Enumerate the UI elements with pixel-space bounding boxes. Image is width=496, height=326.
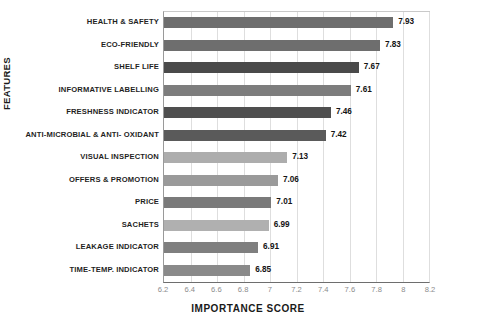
x-tick-label: 7.4 <box>318 285 329 294</box>
category-label: FRESHNESS INDICATOR <box>66 106 159 118</box>
bar-row: TIME-TEMP. INDICATOR6.85 <box>164 260 429 283</box>
x-axis-title: IMPORTANCE SCORE <box>0 303 496 314</box>
x-tick-label: 7 <box>268 285 272 294</box>
bar-row: ANTI-MICROBIAL & ANTI- OXIDANT7.42 <box>164 125 429 148</box>
category-label: OFFERS & PROMOTION <box>69 174 159 186</box>
category-label: SACHETS <box>122 219 159 231</box>
bar <box>164 152 287 163</box>
x-tick-label: 8.2 <box>425 285 436 294</box>
x-tick-label: 7.6 <box>345 285 356 294</box>
bar-value-label: 7.46 <box>336 106 352 118</box>
category-label: ECO-FRIENDLY <box>101 39 159 51</box>
x-axis-tick-labels: 6.26.46.66.877.27.47.67.888.2 <box>163 285 430 299</box>
x-tick-label: 6.6 <box>211 285 222 294</box>
bar-value-label: 7.06 <box>283 174 299 186</box>
category-label: INFORMATIVE LABELLING <box>59 84 159 96</box>
bar-row: SACHETS6.99 <box>164 215 429 238</box>
bar-value-label: 7.93 <box>398 16 414 28</box>
bar <box>164 197 271 208</box>
bars-layer: HEALTH & SAFETY7.93ECO-FRIENDLY7.83SHELF… <box>164 12 429 282</box>
bar <box>164 62 359 73</box>
category-label: ANTI-MICROBIAL & ANTI- OXIDANT <box>25 129 159 141</box>
bar-value-label: 6.91 <box>263 241 279 253</box>
bar-row: PRICE7.01 <box>164 192 429 215</box>
chart-title <box>0 0 496 3</box>
bar-value-label: 7.42 <box>331 129 347 141</box>
bar <box>164 17 393 28</box>
bar-value-label: 7.61 <box>356 84 372 96</box>
bar-value-label: 6.99 <box>274 219 290 231</box>
x-tick-label: 6.2 <box>158 285 169 294</box>
bar-value-label: 7.67 <box>364 61 380 73</box>
bar <box>164 175 278 186</box>
plot-area: HEALTH & SAFETY7.93ECO-FRIENDLY7.83SHELF… <box>163 11 430 283</box>
x-tick-label: 6.8 <box>238 285 249 294</box>
bar-row: HEALTH & SAFETY7.93 <box>164 12 429 35</box>
bar-chart-figure: FEATURES HEALTH & SAFETY7.93ECO-FRIENDLY… <box>0 0 496 326</box>
bar <box>164 40 380 51</box>
bar <box>164 242 258 253</box>
bar-value-label: 7.01 <box>276 196 292 208</box>
y-axis-title: FEATURES <box>1 96 12 110</box>
bar-value-label: 6.85 <box>255 264 271 276</box>
bar <box>164 265 250 276</box>
x-tick-label: 7.2 <box>291 285 302 294</box>
x-tick-label: 8 <box>401 285 405 294</box>
category-label: HEALTH & SAFETY <box>87 16 159 28</box>
bar-value-label: 7.13 <box>292 151 308 163</box>
category-label: LEAKAGE INDICATOR <box>76 241 159 253</box>
bar-row: SHELF LIFE7.67 <box>164 57 429 80</box>
bar-row: FRESHNESS INDICATOR7.46 <box>164 102 429 125</box>
bar-row: VISUAL INSPECTION7.13 <box>164 147 429 170</box>
category-label: SHELF LIFE <box>114 61 159 73</box>
bar <box>164 85 351 96</box>
bar <box>164 220 269 231</box>
x-tick-label: 7.8 <box>371 285 382 294</box>
category-label: TIME-TEMP. INDICATOR <box>70 264 160 276</box>
gridline <box>429 12 430 282</box>
bar-row: ECO-FRIENDLY7.83 <box>164 35 429 58</box>
x-tick-label: 6.4 <box>184 285 195 294</box>
bar <box>164 107 331 118</box>
bar-row: OFFERS & PROMOTION7.06 <box>164 170 429 193</box>
bar-value-label: 7.83 <box>385 39 401 51</box>
bar <box>164 130 326 141</box>
bar-row: INFORMATIVE LABELLING7.61 <box>164 80 429 103</box>
bar-row: LEAKAGE INDICATOR6.91 <box>164 237 429 260</box>
category-label: VISUAL INSPECTION <box>80 151 159 163</box>
category-label: PRICE <box>135 196 159 208</box>
